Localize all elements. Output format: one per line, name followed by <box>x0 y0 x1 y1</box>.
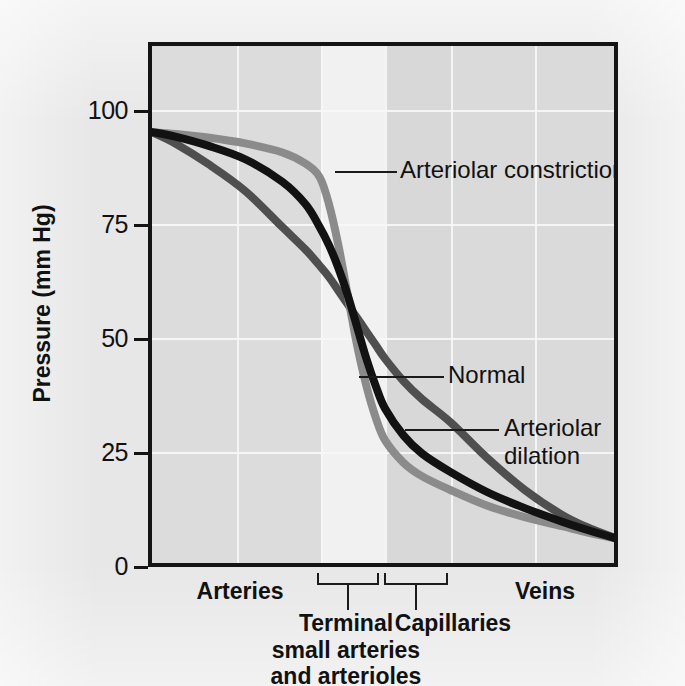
plot-area: Arteriolar constriction Normal Arteriola… <box>148 42 618 567</box>
x-label-arteries: Arteries <box>180 578 300 605</box>
y-tick-mark-75 <box>134 224 148 227</box>
pressure-curves <box>152 46 618 567</box>
x-label-veins: Veins <box>490 578 600 605</box>
bracket-stem-terminal <box>347 585 349 610</box>
annotation-arteriolar-dilation-line2: dilation <box>504 443 580 470</box>
y-tick-mark-50 <box>134 338 148 341</box>
bracket-terminal-arterioles <box>317 573 379 585</box>
annotation-normal: Normal <box>448 362 525 389</box>
curve-normal <box>152 132 618 539</box>
leader-line-normal <box>359 376 444 378</box>
x-label-capillaries: Capillaries <box>388 610 518 637</box>
x-label-terminal-line2: small arteries <box>236 637 456 664</box>
y-axis-title: Pressure (mm Hg) <box>29 174 56 434</box>
y-tick-label-0: 0 <box>68 552 128 581</box>
y-tick-label-75: 75 <box>68 210 128 239</box>
annotation-arteriolar-constriction: Arteriolar constriction <box>400 157 618 184</box>
pressure-profile-figure: Pressure (mm Hg) 100 75 50 25 0 <box>0 0 685 686</box>
y-tick-label-25: 25 <box>68 438 128 467</box>
bracket-capillaries <box>384 573 448 585</box>
y-tick-mark-0 <box>134 566 148 569</box>
y-tick-mark-25 <box>134 452 148 455</box>
leader-line-constriction <box>335 171 397 173</box>
x-label-terminal-line3: and arterioles <box>236 663 456 686</box>
y-tick-label-100: 100 <box>68 96 128 125</box>
y-tick-mark-100 <box>134 110 148 113</box>
curve-arteriolar-constriction <box>152 132 618 539</box>
y-tick-label-50: 50 <box>68 324 128 353</box>
bracket-stem-capillaries <box>415 585 417 610</box>
annotation-arteriolar-dilation-line1: Arteriolar <box>504 415 601 442</box>
curve-arteriolar-dilation <box>152 132 618 539</box>
leader-line-dilation <box>405 429 499 431</box>
